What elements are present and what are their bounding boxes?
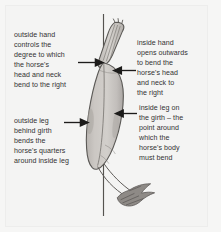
label-outside-leg: outside leg behind girth bends the horse… — [14, 117, 100, 167]
label-outside-hand: outside hand controls the degree to whic… — [14, 31, 100, 90]
head-and-neck — [98, 22, 124, 67]
label-inside-leg: inside leg on the girth – the point arou… — [139, 104, 211, 163]
diagram-container: outside hand controls the degree to whic… — [0, 0, 221, 232]
label-inside-hand: inside hand opens outwards to bend the h… — [137, 39, 209, 98]
